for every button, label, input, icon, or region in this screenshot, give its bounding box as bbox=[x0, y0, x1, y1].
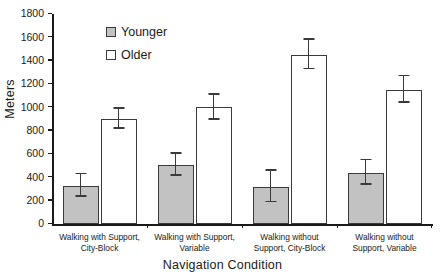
x-axis-category-label: Walking with Support, Variable bbox=[147, 232, 242, 254]
x-axis-tick bbox=[242, 224, 243, 228]
legend: Younger Older bbox=[106, 26, 167, 71]
error-bar-cap bbox=[75, 173, 86, 175]
x-axis-category-label: Walking without Support, City-Block bbox=[242, 232, 337, 254]
error-bar bbox=[80, 174, 82, 196]
error-bar-cap bbox=[360, 159, 371, 161]
y-axis-tick: 1400 bbox=[48, 59, 52, 60]
y-axis-tick-label: 0 bbox=[38, 218, 44, 229]
y-axis-tick-label: 1000 bbox=[21, 102, 44, 113]
y-axis-tick: 1800 bbox=[48, 13, 52, 14]
error-bar-cap bbox=[398, 101, 409, 103]
y-axis-tick-label: 1400 bbox=[21, 55, 44, 66]
error-bar bbox=[175, 154, 177, 176]
error-bar-cap bbox=[303, 68, 314, 70]
error-bar-cap bbox=[170, 174, 181, 176]
x-axis-category-label: Walking with Support, City-Block bbox=[52, 232, 147, 254]
x-axis-tick bbox=[431, 224, 432, 228]
error-bar-cap bbox=[170, 152, 181, 154]
error-bar bbox=[365, 160, 367, 185]
y-axis-tick: 200 bbox=[48, 199, 52, 200]
error-bar bbox=[213, 95, 215, 121]
bar-older bbox=[291, 55, 327, 224]
legend-item-younger: Younger bbox=[106, 26, 167, 39]
y-axis-tick-label: 200 bbox=[26, 195, 44, 206]
error-bar-cap bbox=[360, 183, 371, 185]
error-bar-cap bbox=[265, 169, 276, 171]
bar-older bbox=[101, 119, 137, 224]
y-axis-tick: 0 bbox=[48, 223, 52, 224]
bar-chart: Meters 020040060080010001200140016001800… bbox=[0, 0, 445, 276]
error-bar bbox=[403, 76, 405, 103]
y-axis-tick-label: 800 bbox=[26, 125, 44, 136]
y-axis-tick: 1600 bbox=[48, 36, 52, 37]
legend-item-older: Older bbox=[106, 49, 167, 62]
error-bar-cap bbox=[75, 195, 86, 197]
y-axis-title: Meters bbox=[3, 69, 17, 129]
y-axis-tick: 1000 bbox=[48, 106, 52, 107]
y-axis-tick-label: 1800 bbox=[21, 8, 44, 19]
legend-label-older: Older bbox=[121, 49, 152, 62]
x-axis-tick bbox=[147, 224, 148, 228]
y-axis-tick-label: 1600 bbox=[21, 32, 44, 43]
y-axis-tick: 1200 bbox=[48, 83, 52, 84]
y-axis-line bbox=[52, 14, 54, 225]
error-bar bbox=[118, 109, 120, 129]
error-bar-cap bbox=[113, 127, 124, 129]
error-bar-cap bbox=[208, 93, 219, 95]
error-bar bbox=[308, 40, 310, 69]
error-bar-cap bbox=[398, 75, 409, 77]
x-axis-title: Navigation Condition bbox=[0, 258, 445, 272]
y-axis-tick-label: 400 bbox=[26, 172, 44, 183]
y-axis-tick: 400 bbox=[48, 176, 52, 177]
open-white-square-icon bbox=[106, 50, 116, 60]
filled-gray-square-icon bbox=[106, 27, 116, 37]
error-bar-cap bbox=[303, 38, 314, 40]
bar-older bbox=[386, 90, 422, 224]
y-axis-tick-label: 1200 bbox=[21, 78, 44, 89]
error-bar bbox=[270, 171, 272, 203]
y-axis-tick: 800 bbox=[48, 129, 52, 130]
y-axis-tick: 600 bbox=[48, 153, 52, 154]
error-bar-cap bbox=[113, 107, 124, 109]
error-bar-cap bbox=[265, 201, 276, 203]
legend-label-younger: Younger bbox=[121, 26, 167, 39]
x-axis-category-label: Walking without Support, Variable bbox=[337, 232, 432, 254]
y-axis-tick-label: 600 bbox=[26, 148, 44, 159]
x-axis-tick bbox=[337, 224, 338, 228]
error-bar-cap bbox=[208, 118, 219, 120]
bar-older bbox=[196, 107, 232, 224]
